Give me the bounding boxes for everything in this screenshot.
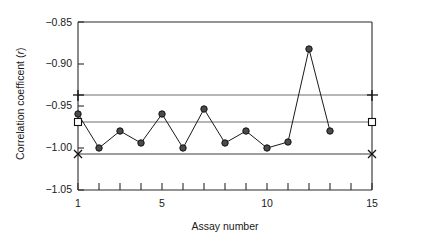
data-point (138, 140, 144, 146)
data-point (264, 145, 270, 151)
correlation-coefficient-line-chart: Correlation coefficent (r) −0.85 −0.90 −… (0, 0, 424, 247)
plus-marker (367, 90, 378, 101)
data-point (201, 106, 207, 112)
square-marker (75, 119, 82, 126)
x-tick-label: 1 (75, 197, 81, 209)
y-tick-marks (78, 22, 84, 190)
x-tick-label: 15 (366, 197, 378, 209)
y-axis-title-text: Correlation coefficent (r) (14, 48, 26, 160)
data-point-outlier (306, 46, 312, 52)
x-axis-title: Assay number (191, 220, 259, 232)
series-line-correlation (78, 49, 330, 148)
data-series (75, 46, 333, 151)
data-point (243, 128, 249, 134)
data-point (117, 128, 123, 134)
y-axis-title: Correlation coefficent (r) (14, 48, 26, 160)
data-point (327, 128, 333, 134)
x-tick-label: 10 (261, 197, 273, 209)
x-tick-label: 5 (159, 197, 165, 209)
data-point (180, 145, 186, 151)
y-tick-labels: −0.85 −0.90 −0.95 −1.00 −1.05 (45, 16, 72, 195)
y-tick-label: −0.90 (45, 57, 72, 69)
square-marker (369, 119, 376, 126)
data-point (285, 139, 291, 145)
plot-frame (78, 22, 372, 190)
data-point (75, 111, 81, 117)
y-tick-label: −1.00 (45, 141, 72, 153)
reference-line-markers (73, 90, 378, 158)
data-point (96, 145, 102, 151)
y-tick-label: −1.05 (45, 183, 72, 195)
y-tick-label: −0.95 (45, 99, 72, 111)
y-tick-label: −0.85 (45, 16, 72, 28)
plus-marker (73, 90, 84, 101)
data-point (222, 140, 228, 146)
data-point (159, 111, 165, 117)
x-tick-marks (78, 183, 372, 190)
chart-figure: Correlation coefficent (r) −0.85 −0.90 −… (0, 0, 424, 247)
x-tick-labels: 1 5 10 15 (75, 197, 378, 209)
